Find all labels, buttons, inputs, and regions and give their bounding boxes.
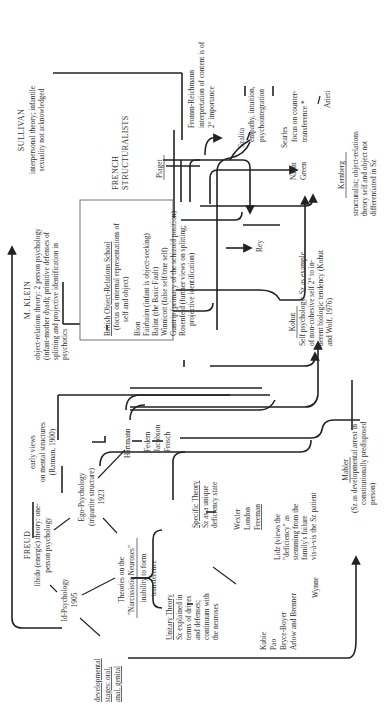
narc-line-2: "Narcissistic Neuroses" [127,545,136,615]
ego-psychology-block: Ego-Psychology (tripartite structure) 19… [77,467,106,526]
mahler-title: Mahler [341,459,350,481]
lidz-line-1: Lidz (views the [273,513,282,560]
klein-title: M. KLEIN [23,281,32,319]
narcissistic-sub: inability to form transference [139,554,158,603]
searles-name: Searles [280,127,289,148]
szalita-line-2: psychointegration [257,89,266,142]
dev-line-3: anal, genital [113,666,122,702]
early-views-line-3: (Ratman, 1900) [48,428,57,475]
klein-line-3: splitting and projective identification … [51,243,60,360]
szalita-line-1: empathy, intuition, [247,86,256,142]
french-line-1: FRENCH [111,156,120,190]
unitary-name-pao: Pao [269,639,278,650]
specific-name-wexler: Wexler [233,508,242,530]
freud-line-2: person psychology [43,517,52,573]
klein-line-1: object-relations theory: 2 person psycho… [33,228,42,360]
rey-block: Rey [255,240,264,252]
ego-psych-line-1: Ego-Psychology [77,472,86,521]
nacht-green-block: Nacht Green [289,161,308,180]
fromm-line-2: interpretation of content is of [197,41,206,128]
searles-line-1: focus on counter- [290,90,299,142]
kohut-title: Kohut [288,312,297,331]
specific-theory-block: Specific Theory Sz as a unique deficienc… [191,480,219,528]
freud-line-1: libido (energic) theory: one- [33,503,42,587]
specific-line-1: Sz as a unique [201,485,210,528]
sullivan-title: SULLIVAN [17,109,26,151]
kohut-desc: Self psychology: Sz as example of non-co… [298,249,334,346]
unitary-names: Kubie Pao Bryce-Boyer Arlow and Brenner [259,592,298,650]
mahler-desc: (Sz as developmental arrest in constitut… [350,422,377,513]
fromm-reichmann-block: Fromm-Reichmann interpretation of conten… [187,41,216,128]
kernberg-line-3: differentiated in Sz [369,159,378,216]
ego-psych-line-2: (tripartite structure) [87,467,96,526]
hartmann-label: Hartmann [123,428,132,458]
unitary-line-5: the neuroses [211,603,220,640]
freud-title: FREUD [23,531,32,559]
british-name-fairbairn: Fairbairn (infant is object-seeking) [142,233,151,336]
dev-line-2: stages: oral, [103,667,112,702]
kernberg-title: Kernberg [337,161,346,189]
mahler-line-2: constitutionally predisposed [359,422,368,505]
british-name-balint: Balint (the Basic Fault) [151,266,160,336]
unitary-title: Unitary Theory [165,594,174,640]
kohut-line-2: of non-cohesive self 2° to in- [307,259,316,346]
french-structuralists-block: FRENCH STRUCTURALISTS [111,115,130,190]
unitary-name-bryce-boyer: Bryce-Boyer [279,611,288,650]
wynne-block: Wynne [311,576,320,598]
narc-sub-1: inability to form [139,554,148,603]
piaget-block: Piaget [155,159,164,178]
british-focus-2: self and object) [121,276,130,322]
unitary-line-3: and defenses; [193,600,202,640]
british-name-winnicott: Winnicott (false self/true self) [160,247,169,336]
arieti-block: Arieti [323,91,332,108]
freud-block: FREUD libido (energic) theory: one- pers… [23,503,52,587]
fromm-line-1: Fromm-Reichmann [187,70,196,128]
unitary-line-2: terms of drives [184,596,193,640]
fromm-line-3: 2° importance [207,86,216,128]
klein-line-2: (infant-mother dyad); primitive defenses… [42,231,51,360]
ego-psych-line-3: 1923 [97,489,106,504]
early-views-line-1: early views [28,435,37,469]
frosch-label: Frosch [163,432,172,452]
mahler-line-1: (Sz as developmental arrest in [350,424,359,513]
specific-name-london: London [243,507,252,530]
szalita-name: Szalita [237,127,246,148]
searles-line-2: transference * [300,100,309,142]
british-school-title: British Object-Relations School [103,242,112,336]
sullivan-line-2: sexuality not acknowledged [37,88,46,171]
federn-block: Federn Jacobson Frosch [143,425,172,452]
kohut-block: Kohut [288,312,297,331]
unitary-theory-block: Unitary Theory Sz explained in terms of … [165,593,220,640]
unitary-name-kubie: Kubie [259,631,268,650]
french-line-2: STRUCTURALISTS [121,115,130,190]
unitary-line-4: continuum with [202,593,211,640]
federn-label: Federn [143,431,152,452]
arieti-label: Arieti [323,91,332,108]
sullivan-block: SULLIVAN interpersonal theory; infantile… [17,85,46,174]
early-views-block: early views on mental structures (Ratman… [28,422,57,482]
kohut-line-1: Self psychology: Sz as example [298,251,307,346]
green-label: Green [299,162,308,180]
narc-sub-2: transference [149,559,158,596]
kohut-line-3: herent biologic tendency (Kohut [316,249,325,346]
kernberg-line-1: structuralist; object-relations [351,131,360,216]
nacht-label: Nacht [289,161,298,180]
klein-line-4: psychotics [60,329,69,360]
kernberg-block: Kernberg [337,161,346,189]
id-psych-line-1: Id-Psychology [60,578,69,621]
specific-title: Specific Theory [191,480,200,528]
jacobson-label: Jacobson [153,425,162,452]
lidz-block: Lidz (views the "deficiency" as stemming… [273,492,318,560]
searles-block: Searles focus on counter- transference * [280,90,309,148]
british-name-rosenfeld-2: projective identification) [187,252,196,326]
hartmann-block: Hartmann [123,428,132,458]
lidz-line-4: family's failure [300,515,309,560]
early-views-line-2: on mental structures [38,422,47,482]
british-name-bion: Bion [133,321,142,336]
specific-name-freeman: Freeman [253,504,262,530]
klein-block: M. KLEIN [23,281,32,319]
specific-names: Wexler London Freeman [233,504,262,530]
lidz-line-5: vis-à-vis the Sz patient [309,492,318,560]
kernberg-desc: structuralist; object-relations theory s… [351,131,378,216]
szalita-block: Szalita empathy, intuition, psychointegr… [237,86,266,148]
